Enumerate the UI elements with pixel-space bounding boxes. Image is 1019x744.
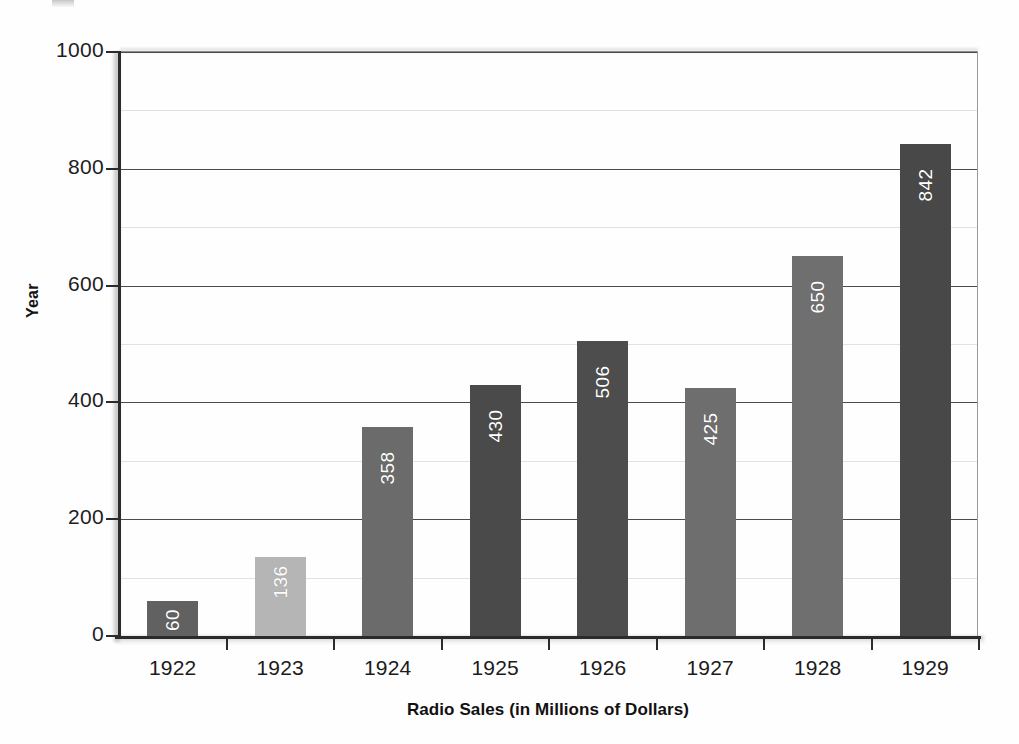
bar-value-label: 136: [269, 556, 291, 607]
bar-value-label: 506: [592, 356, 614, 407]
y-axis-tick: [106, 518, 118, 520]
x-axis-tick-label: 1924: [333, 656, 443, 680]
plot-area: 60136358430506425650842 1922192319241925…: [118, 52, 978, 636]
bar: 430: [470, 385, 521, 636]
x-axis-title: Radio Sales (in Millions of Dollars): [118, 700, 978, 720]
bar: 60: [147, 601, 198, 636]
y-axis-tick-label-text: 1000: [46, 38, 104, 62]
y-axis-tick-label: 200: [46, 505, 104, 529]
x-axis-tick-label: 1928: [763, 656, 873, 680]
bars-group: 60136358430506425650842: [118, 52, 978, 636]
x-axis-tick-label: 1927: [655, 656, 765, 680]
x-axis-tick-label: 1923: [225, 656, 335, 680]
bar: 136: [255, 557, 306, 636]
bar: 506: [577, 341, 628, 637]
bar: 358: [362, 427, 413, 636]
y-axis-tick-label: 600: [46, 272, 104, 296]
y-axis-tick: [106, 51, 118, 53]
y-axis-tick: [106, 401, 118, 403]
bar: 425: [685, 388, 736, 636]
y-axis-tick: [106, 285, 118, 287]
y-axis-tick-label: 800: [46, 155, 104, 179]
bar-value-label: 842: [914, 160, 936, 211]
y-axis-tick-label: 400: [46, 388, 104, 412]
chart-page: Year 02004006008001000 60136358430506425…: [0, 0, 1019, 744]
y-axis-tick-label: 0: [46, 622, 104, 646]
bar-value-label: 358: [377, 442, 399, 493]
bar-value-label: 650: [807, 272, 829, 323]
x-axis-line: [115, 636, 981, 639]
y-axis-tick-label-text: 600: [46, 272, 104, 296]
x-axis-tick-label: 1925: [440, 656, 550, 680]
y-axis-tick-label-text: 200: [46, 505, 104, 529]
y-axis-tick-label-text: 0: [46, 622, 104, 646]
y-axis-tick-label: 1000: [46, 38, 104, 62]
y-axis-line: [118, 51, 121, 637]
bar-value-label: 425: [699, 403, 721, 454]
y-axis-tick-label-text: 800: [46, 155, 104, 179]
y-axis-tick: [106, 168, 118, 170]
y-axis-tick-label-text: 400: [46, 388, 104, 412]
bar-chart-figure: Year 02004006008001000 60136358430506425…: [0, 0, 1019, 744]
y-axis-title: Year: [24, 283, 42, 318]
bar-value-label: 430: [484, 400, 506, 451]
x-axis-tick-label: 1929: [870, 656, 980, 680]
bar: 650: [792, 256, 843, 636]
x-axis-tick-label: 1926: [548, 656, 658, 680]
bar: 842: [900, 144, 951, 636]
x-axis-tick-label: 1922: [118, 656, 228, 680]
